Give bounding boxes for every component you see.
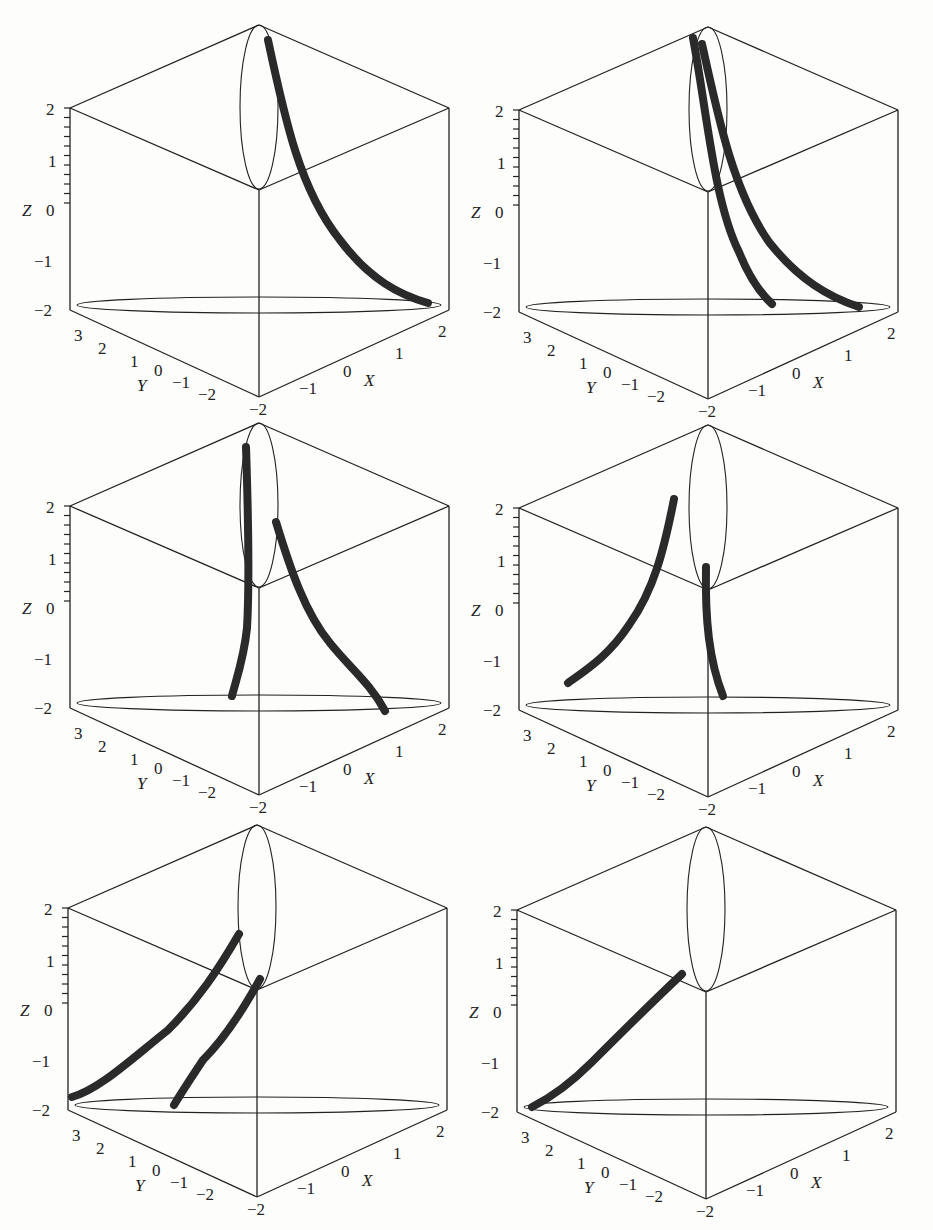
y-tick-0: 0	[601, 1164, 610, 1181]
x-tick-1: 1	[844, 347, 853, 364]
y-tick-3: 3	[74, 725, 83, 742]
z-tick-neg1: −1	[481, 1055, 499, 1072]
y-tick-0: 0	[603, 762, 612, 779]
y-axis-label: Y	[584, 1179, 593, 1196]
field-line-curve	[702, 44, 859, 307]
z-tick-2: 2	[495, 103, 504, 120]
y-axis-label: Y	[586, 379, 595, 396]
x-tick-neg1: −1	[748, 382, 766, 399]
panel-4: 21Z0−1−23210Y−1−2−2−10X12	[449, 400, 919, 810]
z-tick-2: 2	[495, 501, 504, 518]
z-tick-0: 0	[46, 600, 55, 617]
z-axis-label: Z	[471, 602, 480, 619]
x-tick-2: 2	[438, 323, 447, 340]
z-axis-label: Z	[20, 1002, 29, 1019]
panel-5: 21Z0−1−23210Y−1−2−2−10X12	[0, 800, 468, 1210]
y-tick-neg2: −2	[198, 784, 216, 801]
z-tick-2: 2	[46, 101, 55, 118]
y-tick-neg1: −1	[619, 1176, 637, 1193]
y-tick-neg1: −1	[621, 376, 639, 393]
vertical-ellipse	[238, 825, 276, 989]
z-tick-1: 1	[48, 551, 57, 568]
vertical-ellipse	[687, 827, 725, 991]
x-tick-neg2: −2	[696, 1203, 714, 1220]
z-tick-neg2: −2	[483, 702, 501, 719]
x-tick-neg1: −1	[299, 380, 317, 397]
z-tick-neg1: −1	[483, 255, 501, 272]
z-axis-label: Z	[471, 204, 480, 221]
z-tick-1: 1	[46, 953, 55, 970]
z-tick-1: 1	[497, 155, 506, 172]
x-tick-2: 2	[887, 325, 896, 342]
z-axis-label: Z	[22, 202, 31, 219]
z-tick-neg2: −2	[32, 1102, 50, 1119]
z-tick-0: 0	[495, 204, 504, 221]
x-tick-2: 2	[887, 723, 896, 740]
y-axis-label: Y	[137, 377, 146, 394]
y-tick-0: 0	[152, 1162, 161, 1179]
x-tick-1: 1	[842, 1147, 851, 1164]
panel-2: 21Z0−1−23210Y−1−2−2−10X12	[449, 2, 919, 412]
x-tick-2: 2	[438, 721, 447, 738]
y-tick-neg1: −1	[621, 774, 639, 791]
z-tick-neg1: −1	[483, 653, 501, 670]
book-page: 21Z0−1−23210Y−1−2−2−10X1221Z0−1−23210Y−1…	[0, 0, 933, 1230]
y-tick-1: 1	[577, 1155, 586, 1172]
y-tick-1: 1	[128, 1153, 137, 1170]
z-tick-2: 2	[46, 499, 55, 516]
z-tick-neg2: −2	[483, 304, 501, 321]
x-tick-0: 0	[343, 363, 352, 380]
y-tick-neg2: −2	[645, 1188, 663, 1205]
y-tick-3: 3	[523, 329, 532, 346]
x-tick-neg1: −1	[746, 1182, 764, 1199]
z-tick-0: 0	[44, 1002, 53, 1019]
x-axis-label: X	[813, 772, 823, 789]
z-tick-neg1: −1	[34, 253, 52, 270]
y-tick-3: 3	[74, 327, 83, 344]
y-tick-3: 3	[72, 1127, 81, 1144]
z-tick-1: 1	[495, 955, 504, 972]
x-tick-0: 0	[790, 1165, 799, 1182]
y-axis-label: Y	[586, 777, 595, 794]
z-axis-label: Z	[22, 600, 31, 617]
y-tick-neg1: −1	[170, 1174, 188, 1191]
y-tick-neg2: −2	[196, 1186, 214, 1203]
y-tick-0: 0	[154, 362, 163, 379]
y-tick-2: 2	[98, 340, 107, 357]
y-tick-neg2: −2	[647, 786, 665, 803]
y-tick-0: 0	[154, 760, 163, 777]
x-tick-0: 0	[343, 761, 352, 778]
x-tick-1: 1	[844, 745, 853, 762]
y-tick-2: 2	[96, 1140, 105, 1157]
x-axis-label: X	[364, 770, 374, 787]
x-tick-1: 1	[395, 743, 404, 760]
x-tick-2: 2	[885, 1125, 894, 1142]
y-axis-label: Y	[135, 1177, 144, 1194]
y-tick-3: 3	[521, 1129, 530, 1146]
x-axis-label: X	[364, 372, 374, 389]
field-line-curve	[532, 974, 682, 1107]
y-tick-2: 2	[547, 740, 556, 757]
z-tick-neg1: −1	[34, 651, 52, 668]
panel-1: 21Z0−1−23210Y−1−2−2−10X12	[0, 0, 470, 410]
y-tick-neg1: −1	[172, 374, 190, 391]
y-tick-1: 1	[579, 753, 588, 770]
x-axis-label: X	[813, 374, 823, 391]
y-tick-2: 2	[98, 738, 107, 755]
x-tick-neg1: −1	[297, 1180, 315, 1197]
z-axis-label: Z	[469, 1004, 478, 1021]
z-tick-0: 0	[495, 602, 504, 619]
x-tick-1: 1	[395, 345, 404, 362]
x-tick-neg2: −2	[247, 1201, 265, 1218]
field-line-curve	[72, 934, 239, 1097]
x-tick-neg1: −1	[748, 780, 766, 797]
panel-3: 21Z0−1−23210Y−1−2−2−10X12	[0, 398, 470, 808]
y-tick-0: 0	[603, 364, 612, 381]
y-tick-neg1: −1	[172, 772, 190, 789]
x-axis-label: X	[811, 1174, 821, 1191]
z-tick-0: 0	[493, 1004, 502, 1021]
z-tick-neg1: −1	[32, 1053, 50, 1070]
x-tick-1: 1	[393, 1145, 402, 1162]
y-tick-2: 2	[547, 342, 556, 359]
z-tick-neg2: −2	[34, 302, 52, 319]
